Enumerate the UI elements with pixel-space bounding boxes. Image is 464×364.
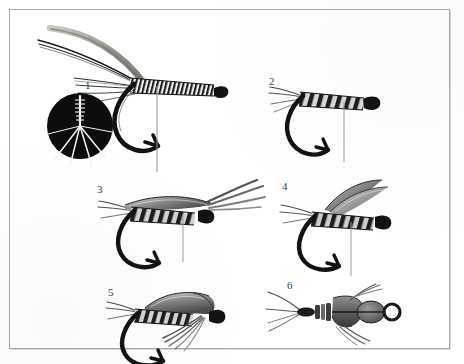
figure-2-drawing [262, 66, 392, 174]
feather-stem-upper [50, 28, 146, 86]
hook-eye [209, 310, 225, 324]
figure-6: 6 [266, 272, 406, 354]
figure-3: 3 [95, 178, 275, 268]
figure-3-drawing [95, 178, 275, 268]
figure-number-1: 1 [85, 80, 91, 91]
hook-eye [198, 209, 214, 223]
figure-number-3: 3 [97, 184, 103, 195]
hook-eye [214, 86, 228, 98]
figure-1: 1 [18, 14, 236, 174]
hook-eye [375, 215, 391, 229]
fly-body-ribbed [296, 86, 370, 118]
hook-eye-ring [384, 304, 400, 320]
figure-1-drawing [18, 14, 236, 174]
figure-5-drawing [105, 280, 265, 358]
abdomen-segments [315, 303, 331, 321]
illustration-plate: 1 [0, 0, 464, 364]
trailing-wing-fibers [207, 180, 265, 210]
figure-number-4: 4 [282, 181, 288, 192]
figure-number-2: 2 [269, 76, 275, 87]
figure-4-drawing [278, 176, 428, 268]
inset-detail-circle [47, 93, 113, 166]
figure-2: 2 [262, 66, 392, 174]
figure-number-5: 5 [108, 287, 114, 298]
hook-eye [363, 97, 380, 110]
thorax-head [357, 301, 385, 323]
tail-tip [297, 308, 315, 317]
figure-5: 5 [105, 280, 265, 358]
figure-number-6: 6 [287, 280, 293, 291]
figure-4: 4 [278, 176, 428, 268]
tail-fibers [266, 292, 300, 331]
